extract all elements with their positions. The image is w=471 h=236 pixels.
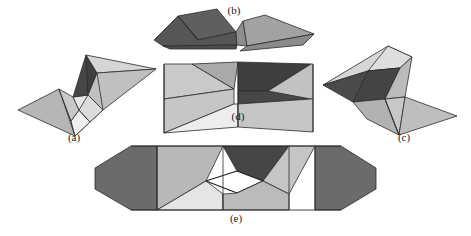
- b-left-lower-shade: [163, 45, 237, 49]
- panel-d-group: [164, 62, 313, 133]
- panel-e-group: [95, 146, 376, 210]
- figure-root: (a) (b) (c) (d) (e): [0, 0, 471, 236]
- panel-label-e: (e): [230, 212, 242, 224]
- d-right-lower-facet: [238, 99, 313, 132]
- panel-label-a: (a): [68, 131, 80, 143]
- panel-label-d: (d): [232, 110, 245, 122]
- panel-label-b: (b): [228, 4, 241, 16]
- panel-label-c: (c): [398, 131, 410, 143]
